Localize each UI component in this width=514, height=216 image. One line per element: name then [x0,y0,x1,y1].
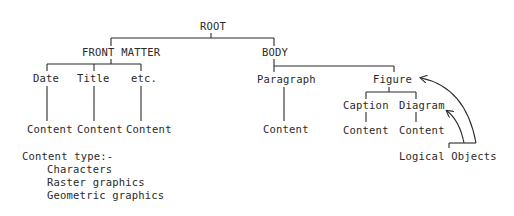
body-node: BODY [262,46,288,58]
title-content-node: Content [77,123,123,135]
diagram-node: Diagram [399,99,445,111]
logical-objects-label: Logical Objects [399,150,497,162]
root-node: ROOT [200,20,226,32]
paragraph-node: Paragraph [257,73,316,85]
date-content-node: Content [27,123,73,135]
figure-node: Figure [373,73,412,85]
content-type-heading: Content type:- [22,150,113,162]
caption-content-node: Content [343,124,389,136]
paragraph-content-node: Content [263,123,309,135]
title-node: Title [77,72,110,84]
date-node: Date [33,72,59,84]
front-matter-node: FRONT MATTER [82,46,160,58]
content-type-item: Raster graphics [47,176,145,188]
etc-content-node: Content [126,123,172,135]
content-type-item: Characters [47,163,112,175]
etc-node: etc. [131,72,157,84]
caption-node: Caption [343,99,389,111]
diagram-content-node: Content [399,124,445,136]
content-type-item: Geometric graphics [47,189,164,201]
logical-structure-diagram: ROOT FRONT MATTER BODY Date Title etc. C… [0,0,514,216]
